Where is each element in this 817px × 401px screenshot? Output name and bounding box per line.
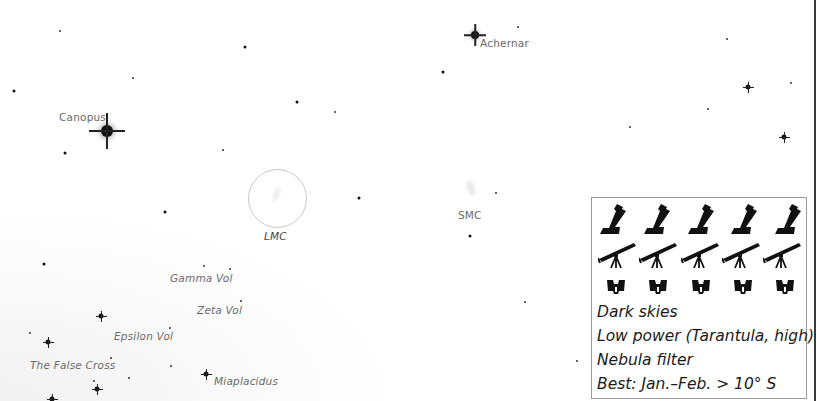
info-filter: Nebula filter — [597, 351, 693, 369]
star — [296, 101, 299, 104]
star — [517, 26, 519, 28]
star — [469, 235, 472, 238]
refractor-row — [598, 241, 803, 269]
star — [746, 85, 751, 90]
star — [46, 340, 51, 345]
star — [64, 152, 67, 155]
star — [790, 82, 792, 84]
label-zeta-vol: Zeta Vol — [197, 304, 242, 316]
star — [43, 263, 46, 266]
info-magnification: Low power (Tarantula, high) — [597, 327, 814, 345]
binoculars-row — [598, 279, 803, 295]
star — [495, 192, 497, 194]
label-epsilon-vol: Epsilon Vol — [114, 330, 173, 342]
star — [93, 380, 95, 382]
dobsonian-telescope-icon — [729, 203, 759, 235]
star — [170, 365, 172, 367]
dobsonian-telescope-icon — [598, 203, 628, 235]
star-miaplacidus[interactable] — [204, 372, 209, 377]
star — [576, 360, 578, 362]
smc-smudge[interactable] — [465, 179, 477, 197]
star-zeta-vol[interactable] — [240, 300, 242, 302]
star — [629, 126, 631, 128]
star — [13, 90, 16, 93]
info-best-time: Best: Jan.–Feb. > 10° S — [597, 375, 776, 393]
binoculars-icon — [648, 279, 668, 295]
star — [99, 314, 104, 319]
star — [59, 30, 61, 32]
label-achernar: Achernar — [480, 37, 529, 49]
dobsonian-telescope-icon — [686, 203, 716, 235]
dobsonian-telescope-icon — [642, 203, 672, 235]
star — [132, 77, 134, 79]
label-gamma-vol: Gamma Vol — [170, 272, 233, 284]
star — [726, 38, 728, 40]
star — [95, 387, 100, 392]
refractor-telescope-icon — [681, 241, 721, 269]
star — [222, 149, 224, 151]
star-epsilon-vol[interactable] — [169, 327, 171, 329]
info-sky-conditions: Dark skies — [597, 303, 678, 321]
star — [244, 46, 247, 49]
refractor-telescope-icon — [763, 241, 803, 269]
refractor-telescope-icon — [598, 241, 638, 269]
label-false-cross: The False Cross — [30, 359, 116, 371]
binoculars-icon — [733, 279, 753, 295]
label-miaplacidus: Miaplacidus — [214, 375, 278, 387]
star — [128, 377, 130, 379]
dobsonian-telescope-icon — [773, 203, 803, 235]
label-smc: SMC — [458, 209, 482, 221]
star — [334, 111, 336, 113]
star-gamma-vol[interactable] — [229, 268, 231, 270]
star — [50, 397, 55, 401]
page-edge-rule — [814, 0, 816, 401]
star-achernar[interactable] — [471, 31, 479, 39]
star — [524, 301, 526, 303]
star — [29, 332, 31, 334]
star-gamma-vol-field — [203, 265, 205, 267]
star — [442, 71, 445, 74]
observing-info-panel: Dark skies Low power (Tarantula, high) N… — [591, 197, 807, 399]
refractor-telescope-icon — [722, 241, 762, 269]
star — [707, 108, 709, 110]
star — [358, 197, 361, 200]
star-chart: Canopus Achernar LMC SMC Gamma Vol Zeta … — [0, 0, 817, 401]
binoculars-icon — [775, 279, 795, 295]
refractor-telescope-icon — [639, 241, 679, 269]
dobsonian-row — [598, 203, 803, 235]
binoculars-icon — [691, 279, 711, 295]
star — [164, 211, 167, 214]
binoculars-icon — [606, 279, 626, 295]
label-canopus: Canopus — [59, 111, 106, 123]
star-canopus[interactable] — [101, 125, 113, 137]
label-lmc: LMC — [264, 230, 287, 242]
star — [782, 135, 787, 140]
